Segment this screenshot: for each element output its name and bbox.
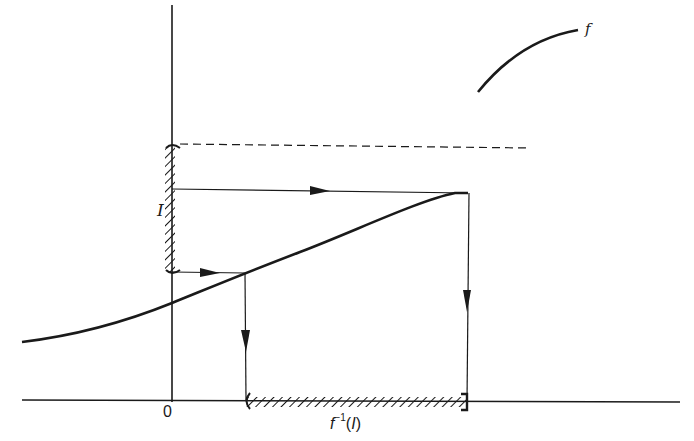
interval-I-hatch	[165, 145, 180, 273]
origin-label: 0	[163, 403, 172, 421]
right-down-arrowhead-icon	[463, 290, 471, 312]
preimage-close-paren: )	[356, 415, 361, 432]
interval-I-label: I	[157, 200, 164, 220]
preimage-diagram	[0, 0, 694, 441]
legend-curve-f	[478, 30, 578, 92]
preimage-label: f−1(I)	[330, 412, 361, 433]
function-f-label: f	[585, 20, 591, 38]
left-down-arrowhead-icon	[241, 330, 250, 352]
upper-arrowhead-icon	[310, 186, 330, 195]
preimage-hatch	[246, 393, 467, 410]
lower-arrowhead-icon	[200, 268, 220, 277]
preimage-superscript: −1	[334, 412, 345, 423]
asymptote-dashed-line	[180, 144, 530, 148]
